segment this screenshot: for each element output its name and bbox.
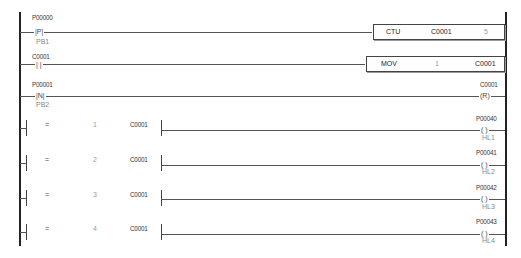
coil-comment: HL2 bbox=[482, 168, 495, 175]
compare-operand: C0001 bbox=[130, 156, 148, 163]
compare-operand: C0001 bbox=[130, 225, 148, 232]
ctu-function-block[interactable]: CTU C0001 5 bbox=[373, 24, 505, 40]
rung-6-wire bbox=[161, 199, 505, 200]
coil-comment: HL1 bbox=[482, 134, 495, 141]
normally-open-contact[interactable]: | | bbox=[35, 60, 43, 69]
contact-address: P00001 bbox=[32, 81, 53, 88]
instruction: MOV bbox=[381, 60, 397, 67]
coil-address: P00042 bbox=[476, 184, 497, 191]
coil-address: C0001 bbox=[480, 81, 498, 88]
compare-left-bracket bbox=[26, 155, 27, 171]
compare-right-bracket bbox=[161, 155, 162, 171]
coil-comment: HL4 bbox=[482, 237, 495, 244]
compare-right-bracket bbox=[161, 224, 162, 240]
operand-source: 1 bbox=[435, 60, 439, 67]
positive-edge-contact[interactable]: |P| bbox=[34, 27, 44, 36]
rung-5-wire bbox=[161, 165, 505, 166]
coil-address: P00043 bbox=[476, 218, 497, 225]
negative-edge-contact[interactable]: |N| bbox=[35, 91, 46, 100]
instruction: CTU bbox=[386, 28, 400, 35]
compare-value: 2 bbox=[92, 155, 98, 164]
compare-value: 3 bbox=[92, 190, 98, 199]
compare-operator: = bbox=[44, 224, 50, 233]
output-coil[interactable]: ( ) bbox=[480, 125, 489, 134]
coil-address: P00041 bbox=[476, 149, 497, 156]
output-coil[interactable]: ( ) bbox=[480, 194, 489, 203]
contact-comment: PB2 bbox=[36, 101, 49, 108]
contact-address: C0001 bbox=[32, 53, 50, 60]
compare-left-bracket bbox=[26, 190, 27, 206]
reset-coil[interactable]: (R) bbox=[479, 91, 491, 100]
contact-comment: PB1 bbox=[36, 38, 49, 45]
left-power-rail bbox=[19, 12, 21, 96]
compare-right-bracket bbox=[161, 190, 162, 206]
rung-3-wire bbox=[20, 96, 505, 97]
compare-operand: C0001 bbox=[130, 191, 148, 198]
coil-address: P00040 bbox=[476, 115, 497, 122]
compare-right-bracket bbox=[161, 120, 162, 136]
compare-operator: = bbox=[44, 155, 50, 164]
right-power-rail bbox=[505, 12, 507, 246]
compare-left-bracket bbox=[26, 120, 27, 136]
mov-function-block[interactable]: MOV 1 C0001 bbox=[366, 56, 505, 72]
operand-counter: C0001 bbox=[431, 28, 452, 35]
rung-1-wire bbox=[20, 32, 372, 33]
compare-operator: = bbox=[44, 190, 50, 199]
operand-preset: 5 bbox=[484, 28, 488, 35]
compare-value: 1 bbox=[92, 120, 98, 129]
rung-7-wire bbox=[161, 234, 505, 235]
compare-operator: = bbox=[44, 120, 50, 129]
rung-2-wire bbox=[20, 64, 365, 65]
compare-left-bracket bbox=[26, 224, 27, 240]
left-power-rail-lower bbox=[19, 96, 21, 246]
rung-4-wire bbox=[161, 130, 505, 131]
compare-operand: C0001 bbox=[130, 121, 148, 128]
operand-destination: C0001 bbox=[475, 60, 496, 67]
compare-value: 4 bbox=[92, 224, 98, 233]
coil-comment: HL3 bbox=[482, 203, 495, 210]
contact-address: P00000 bbox=[32, 14, 53, 21]
